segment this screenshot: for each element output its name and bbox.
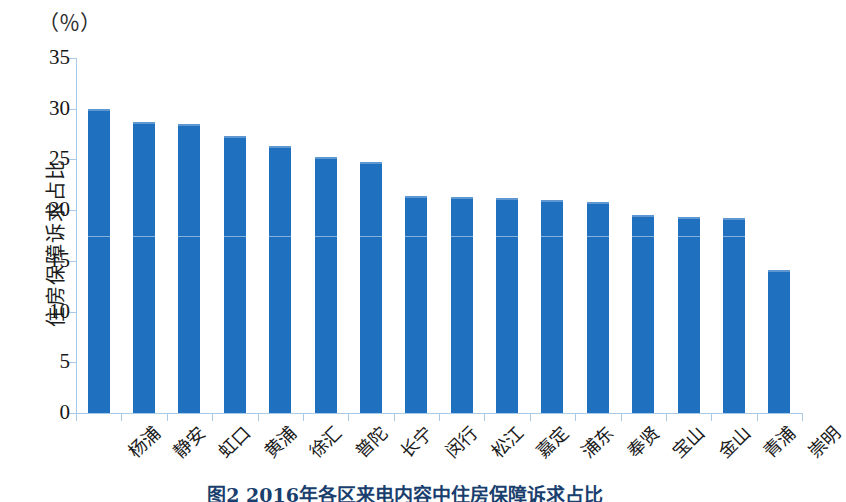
bar-scan-line xyxy=(768,236,790,237)
x-axis-label: 嘉定 xyxy=(530,419,574,463)
x-axis-label: 杨浦 xyxy=(121,419,165,463)
x-axis-label: 松江 xyxy=(484,419,528,463)
bar xyxy=(768,270,790,413)
bar-highlight xyxy=(360,162,382,164)
x-axis-label: 静安 xyxy=(167,419,211,463)
bar-highlight xyxy=(541,200,563,202)
y-tick-mark xyxy=(69,109,76,110)
bar-scan-line xyxy=(405,236,427,237)
y-tick-mark xyxy=(69,210,76,211)
bar xyxy=(88,109,110,413)
y-tick-label: 15 xyxy=(28,249,70,271)
bar-scan-line xyxy=(496,236,518,237)
y-tick-mark xyxy=(69,413,76,414)
y-axis-unit-label: （％） xyxy=(38,6,101,36)
bar-scan-line xyxy=(88,236,110,237)
bar xyxy=(678,217,700,413)
y-tick-label: 0 xyxy=(28,401,70,423)
bar-highlight xyxy=(723,218,745,220)
x-axis-label: 虹口 xyxy=(212,419,256,463)
bar-scan-line xyxy=(360,236,382,237)
y-tick-label: 20 xyxy=(28,198,70,220)
bar-highlight xyxy=(315,157,337,159)
x-axis-label: 青浦 xyxy=(756,419,800,463)
x-axis-label: 徐汇 xyxy=(303,419,347,463)
bar xyxy=(133,122,155,413)
bar xyxy=(405,196,427,413)
x-axis-label: 长宁 xyxy=(393,419,437,463)
bar-scan-line xyxy=(541,236,563,237)
bar xyxy=(496,198,518,413)
bar-scan-line xyxy=(678,236,700,237)
y-tick-label: 35 xyxy=(28,46,70,68)
bar-highlight xyxy=(632,215,654,217)
bar-highlight xyxy=(224,136,246,138)
bar-highlight xyxy=(451,197,473,199)
y-tick-mark xyxy=(69,312,76,313)
x-axis-label: 崇明 xyxy=(802,419,846,463)
bar-highlight xyxy=(269,146,291,148)
y-axis-title: 住房保障诉求占比 xyxy=(40,93,69,393)
x-axis-labels: 杨浦静安虹口黄浦徐汇普陀长宁闵行松江嘉定浦东奉贤宝山金山青浦崇明 xyxy=(76,413,802,479)
bar-highlight xyxy=(678,217,700,219)
x-axis-label: 闵行 xyxy=(439,419,483,463)
x-tick-mark xyxy=(802,413,803,421)
y-tick-label: 5 xyxy=(28,350,70,372)
y-tick-mark xyxy=(69,159,76,160)
bar xyxy=(587,202,609,413)
bar-series xyxy=(76,58,802,413)
bar-highlight xyxy=(496,198,518,200)
y-tick-mark xyxy=(69,362,76,363)
x-axis-label: 浦东 xyxy=(575,419,619,463)
bar-scan-line xyxy=(587,236,609,237)
bar-highlight xyxy=(88,109,110,111)
bar-scan-line xyxy=(632,236,654,237)
bar-scan-line xyxy=(178,236,200,237)
x-axis-label: 黄浦 xyxy=(257,419,301,463)
x-axis-label: 金山 xyxy=(711,419,755,463)
bar-highlight xyxy=(133,122,155,124)
y-tick-mark xyxy=(69,58,76,59)
bar xyxy=(178,124,200,413)
bar-scan-line xyxy=(315,236,337,237)
plot-area: 05101520253035 xyxy=(76,58,802,413)
bar xyxy=(360,162,382,413)
y-tick-label: 30 xyxy=(28,97,70,119)
bar xyxy=(541,200,563,413)
bar-highlight xyxy=(405,196,427,198)
y-tick-label: 25 xyxy=(28,147,70,169)
y-tick-mark xyxy=(69,261,76,262)
bar-scan-line xyxy=(451,236,473,237)
bar-highlight xyxy=(178,124,200,126)
bar xyxy=(315,157,337,413)
x-axis-label: 宝山 xyxy=(666,419,710,463)
bar xyxy=(451,197,473,413)
bar xyxy=(632,215,654,413)
x-axis-label: 普陀 xyxy=(348,419,392,463)
bar-scan-line xyxy=(133,236,155,237)
bar xyxy=(723,218,745,413)
x-axis-label: 奉贤 xyxy=(620,419,664,463)
y-tick-label: 10 xyxy=(28,300,70,322)
bar-highlight xyxy=(768,270,790,272)
bar-scan-line xyxy=(269,236,291,237)
figure-caption: 图2 2016年各区来电内容中住房保障诉求占比 xyxy=(0,482,810,502)
bar xyxy=(224,136,246,413)
bar-scan-line xyxy=(224,236,246,237)
bar-highlight xyxy=(587,202,609,204)
bar xyxy=(269,146,291,413)
bar-scan-line xyxy=(723,236,745,237)
